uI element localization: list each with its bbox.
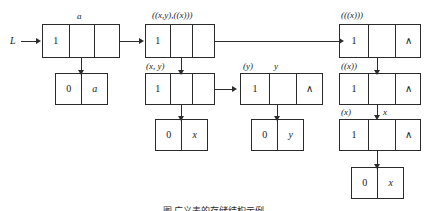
node-n9-cell-nil: ∧	[395, 74, 420, 104]
node-n11: 0 x	[351, 167, 404, 199]
node-n9-cell-tag: 1	[340, 74, 368, 104]
node-n3-cell-tag: 1	[146, 25, 170, 57]
figure-caption: 图 广义表的存储结构示例	[0, 204, 427, 211]
node-n5-cell-value: x	[181, 120, 207, 150]
node-n3-cell-tail	[192, 25, 214, 57]
arrowhead-n1-to-n2	[78, 70, 84, 75]
node-n4-cell-tail	[192, 74, 214, 104]
node-n1-cell-tag: 1	[43, 25, 69, 57]
node-n5: 0 x	[155, 119, 208, 151]
node-n3: 1	[145, 24, 215, 58]
arrowhead-n10-to-n11	[374, 164, 380, 169]
node-n6-cell-tag: 1	[241, 74, 269, 104]
node-n8-cell-head	[368, 25, 395, 57]
node-n9: 1 ∧	[339, 73, 421, 105]
node-n11-cell-tag: 0	[352, 168, 377, 198]
connector-L-to-n1	[21, 41, 37, 42]
arrowhead-n1-to-n3	[139, 38, 144, 44]
node-n11-cell-value: x	[377, 168, 403, 198]
node-n1: 1	[42, 24, 120, 58]
arrowhead-n3-to-n4	[178, 70, 184, 75]
node-n10: 1 ∧	[339, 119, 421, 151]
node-label-n1: a	[77, 12, 82, 21]
node-n4-cell-head	[170, 74, 193, 104]
node-n6-cell-head	[269, 74, 296, 104]
head-pointer-label: L	[10, 35, 16, 46]
node-n6-cell-nil: ∧	[296, 74, 322, 104]
node-label-n9: ((x))	[341, 62, 357, 71]
node-n1-cell-tail	[94, 25, 119, 57]
node-label-n8: (((x)))	[341, 11, 363, 20]
connector-n3-to-n8	[200, 41, 340, 42]
node-n10-cell-nil: ∧	[395, 120, 420, 150]
arrowhead-L-to-n1	[36, 38, 41, 44]
arrowhead-n3-to-n8	[339, 38, 344, 44]
node-label-n6-alt: y	[274, 62, 278, 71]
node-n4-cell-tag: 1	[146, 74, 170, 104]
node-n7-cell-tag: 0	[252, 120, 277, 150]
arrowhead-n8-to-n9	[374, 70, 380, 75]
node-n10-cell-head	[368, 120, 395, 150]
node-n7: 0 y	[251, 119, 304, 151]
node-n2: 0 a	[55, 73, 108, 105]
node-n8-cell-tag: 1	[340, 25, 368, 57]
arrowhead-n4-to-n5	[178, 116, 184, 121]
node-n2-cell-value: a	[81, 74, 107, 104]
node-n2-cell-tag: 0	[56, 74, 81, 104]
node-label-n10: (x)	[341, 108, 351, 117]
node-n4: 1	[145, 73, 215, 105]
figure-canvas: L a 1 0 a ((x,y),((x))) 1 (x, y) 1	[0, 0, 427, 211]
node-n10-cell-tag: 1	[340, 120, 368, 150]
node-label-n3: ((x,y),((x)))	[152, 11, 192, 20]
node-n8: 1 ∧	[339, 24, 421, 58]
node-n3-cell-head	[170, 25, 193, 57]
node-n1-cell-head	[69, 25, 95, 57]
node-n9-cell-head	[368, 74, 395, 104]
node-label-n4: (x, y)	[146, 62, 164, 71]
arrowhead-n4-to-n6	[232, 86, 237, 92]
node-n7-cell-value: y	[277, 120, 303, 150]
node-label-n10-alt: x	[383, 108, 387, 117]
node-label-n6: (y)	[243, 62, 253, 71]
node-n5-cell-tag: 0	[156, 120, 181, 150]
node-n6: 1 ∧	[240, 73, 323, 105]
node-n8-cell-nil: ∧	[395, 25, 420, 57]
arrowhead-n6-to-n7	[274, 116, 280, 121]
arrowhead-n9-to-n10	[374, 115, 380, 120]
